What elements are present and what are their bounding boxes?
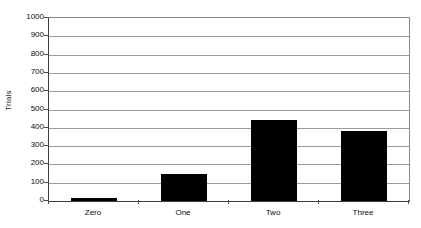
x-axis-tick-mark xyxy=(138,200,139,204)
y-axis-tick-label: 600 xyxy=(16,86,44,94)
y-axis-tick-label: 0 xyxy=(16,196,44,204)
y-axis-tick-mark xyxy=(44,35,48,36)
y-axis-tick-mark xyxy=(44,17,48,18)
y-axis-tick-mark xyxy=(44,200,48,201)
y-axis-tick-label: 900 xyxy=(16,31,44,39)
y-axis-tick-label: 500 xyxy=(16,105,44,113)
y-axis-title-text: Trials xyxy=(4,90,13,110)
x-axis-category-label: Zero xyxy=(85,208,101,217)
y-axis-tick-mark xyxy=(44,145,48,146)
y-axis-tick-label: 300 xyxy=(16,141,44,149)
y-axis-tick-label: 100 xyxy=(16,178,44,186)
bars-layer xyxy=(49,18,409,201)
y-axis-tick-label: 800 xyxy=(16,50,44,58)
x-axis-category-label: One xyxy=(175,208,190,217)
y-axis-tick-label: 700 xyxy=(16,68,44,76)
x-axis-tick-mark xyxy=(48,200,49,204)
x-axis-tick-mark xyxy=(318,200,319,204)
y-axis-tick-mark xyxy=(44,54,48,55)
x-axis: ZeroOneTwoThree xyxy=(48,200,410,228)
bar xyxy=(161,174,207,201)
y-axis-tick-mark xyxy=(44,182,48,183)
bar xyxy=(251,120,297,201)
y-axis-tick-mark xyxy=(44,109,48,110)
y-axis-tick-mark xyxy=(44,163,48,164)
y-axis-tick-mark xyxy=(44,72,48,73)
x-axis-category-label: Three xyxy=(353,208,374,217)
y-axis-tick-mark xyxy=(44,127,48,128)
y-axis-tick-label: 400 xyxy=(16,123,44,131)
x-axis-category-label: Two xyxy=(266,208,281,217)
x-axis-tick-mark xyxy=(228,200,229,204)
y-axis-tick-mark xyxy=(44,90,48,91)
bar xyxy=(341,131,387,201)
y-axis-tick-label: 200 xyxy=(16,159,44,167)
y-axis-tick-labels: 10009008007006005004003002001000 xyxy=(16,0,44,228)
y-axis-tick-label: 1000 xyxy=(16,13,44,21)
x-axis-tick-mark xyxy=(408,200,409,204)
plot-area xyxy=(48,17,410,202)
y-axis-title: Trials xyxy=(0,0,16,200)
bar-chart-figure: Trials 10009008007006005004003002001000 … xyxy=(0,0,421,228)
